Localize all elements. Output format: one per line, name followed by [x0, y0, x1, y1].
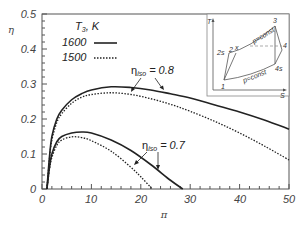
- y-axis-ticks: [42, 14, 47, 189]
- svg-text:2s: 2s: [216, 49, 225, 56]
- legend-label-1600: 1600: [62, 36, 87, 48]
- x-tick-label: 50: [283, 193, 296, 205]
- inset-axis-S: S: [280, 92, 285, 99]
- legend-title: T3, K: [75, 20, 100, 33]
- y-tick-label: 0.1: [21, 148, 36, 160]
- y-tick-label: 0.5: [21, 8, 37, 20]
- svg-text:2: 2: [228, 46, 233, 53]
- svg-text:4s: 4s: [275, 65, 283, 72]
- svg-text:4: 4: [283, 42, 287, 49]
- x-tick-label: 10: [85, 193, 98, 205]
- svg-text:1: 1: [221, 83, 225, 90]
- inset-ts-diagram: T S 1 2s 2 x 3 4 4s p=const p=const: [207, 14, 289, 99]
- svg-text:3: 3: [273, 17, 277, 24]
- y-tick-label: 0.4: [21, 43, 36, 55]
- svg-text:ηiso = 0.7: ηiso = 0.7: [142, 139, 186, 152]
- legend-label-1500: 1500: [62, 51, 87, 63]
- y-tick-label: 0: [30, 183, 37, 195]
- data-series: [47, 87, 289, 189]
- x-axis-ticks: [42, 184, 289, 189]
- x-tick-label: 30: [184, 193, 197, 205]
- x-tick-label: 20: [134, 193, 148, 205]
- annotation-eta-iso-0.7: ηiso = 0.7: [134, 139, 186, 170]
- chart: 0 0.1 0.2 0.3 0.4 0.5 0 10 20 30 40 50 η…: [0, 0, 301, 225]
- legend: T3, K 1600 1500: [62, 20, 117, 63]
- curve-solid: [47, 87, 289, 189]
- svg-text:x: x: [234, 44, 239, 51]
- x-axis-title: π: [160, 209, 168, 220]
- y-tick-label: 0.2: [21, 113, 36, 125]
- x-tick-label: 0: [39, 193, 46, 205]
- x-tick-label: 40: [234, 193, 247, 205]
- inset-axis-T: T: [207, 18, 212, 25]
- svg-text:ηiso = 0.8: ηiso = 0.8: [131, 64, 175, 77]
- y-tick-label: 0.3: [21, 78, 37, 90]
- y-axis-title: η: [8, 24, 14, 35]
